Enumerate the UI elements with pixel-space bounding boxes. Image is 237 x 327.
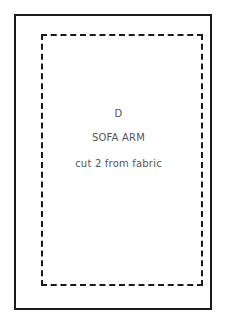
piece-name: SOFA ARM: [0, 132, 237, 143]
piece-letter: D: [0, 108, 237, 119]
cut-instruction: cut 2 from fabric: [0, 158, 237, 169]
